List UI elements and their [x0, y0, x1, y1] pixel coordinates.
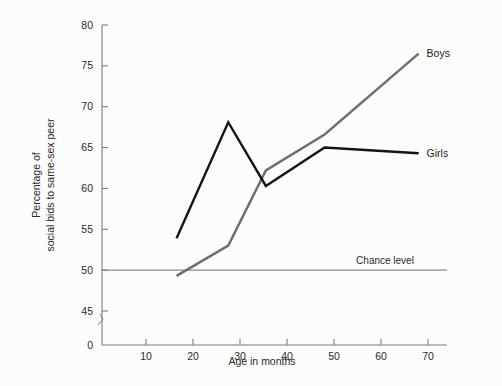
y-zero-label: 0 [87, 339, 93, 351]
y-tick-label: 75 [81, 59, 93, 71]
line-chart: 45505560657075800 10203040506070 Chance … [0, 0, 502, 386]
y-tick-label: 65 [81, 141, 93, 153]
x-tick-label: 50 [328, 350, 340, 362]
x-tick-label: 70 [422, 350, 434, 362]
x-axis-title: Age in months [228, 355, 295, 367]
y-tick-label: 60 [81, 182, 93, 194]
y-tick-label: 70 [81, 100, 93, 112]
x-tick-label: 20 [187, 350, 199, 362]
y-tick-label: 55 [81, 223, 93, 235]
x-tick-label: 10 [140, 350, 152, 362]
x-tick-label: 60 [375, 350, 387, 362]
series-label-girls: Girls [427, 147, 449, 159]
y-tick-label: 50 [81, 264, 93, 276]
series-label-boys: Boys [427, 47, 450, 59]
chart-container: 45505560657075800 10203040506070 Chance … [0, 0, 502, 386]
y-axis-title-line-1: Percentage of [30, 152, 42, 217]
chance-level-label: Chance level [356, 255, 414, 266]
y-tick-label: 45 [81, 305, 93, 317]
y-tick-label: 80 [81, 19, 93, 31]
y-axis-title-line-2: social bids to same-sex peer [44, 118, 56, 252]
